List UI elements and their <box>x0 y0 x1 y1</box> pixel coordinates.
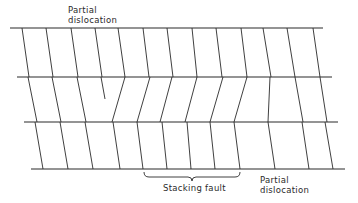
atomic-column-r1-7 <box>167 28 173 77</box>
stacking-fault-diagram: Partial dislocation Stacking fault Parti… <box>0 0 358 203</box>
atomic-column-r2-5 <box>137 77 150 122</box>
atomic-column-r2-4 <box>112 77 125 122</box>
atomic-column-r3-12 <box>325 122 333 169</box>
partial-dislocation-label-top: Partial dislocation <box>68 5 117 25</box>
atomic-column-r1-5 <box>118 28 125 77</box>
partial-dislocation-half-plane <box>101 77 105 99</box>
atomic-column-r3-9 <box>234 122 240 169</box>
atomic-column-r3-5 <box>137 122 143 169</box>
atomic-column-r1-8 <box>192 28 197 77</box>
partial-label-bottom-line1: Partial <box>260 175 309 185</box>
atomic-column-r3-2 <box>60 122 68 169</box>
stacking-fault-label: Stacking fault <box>163 183 226 193</box>
atomic-column-r3-11 <box>302 122 309 169</box>
atomic-column-r1-11 <box>263 28 271 77</box>
atomic-column-r1-3 <box>71 28 78 77</box>
atomic-column-r3-10 <box>268 122 275 169</box>
partial-label-top-line2: dislocation <box>68 15 117 25</box>
atomic-column-r2-7 <box>185 77 197 122</box>
atomic-column-r1-9 <box>216 28 222 77</box>
atomic-column-r3-6 <box>162 122 167 169</box>
atomic-column-r2-10 <box>268 77 270 122</box>
atomic-column-r3-4 <box>113 122 120 169</box>
atomic-column-r2-12 <box>320 77 327 122</box>
partial-label-bottom-line2: dislocation <box>260 185 309 195</box>
atomic-column-r1-6 <box>143 28 149 77</box>
atomic-column-r1-10 <box>241 28 247 77</box>
atomic-column-r2-9 <box>234 77 247 122</box>
atomic-column-r2-2 <box>52 77 61 122</box>
atomic-column-r1-4 <box>95 28 102 77</box>
lattice-drawing <box>0 0 358 203</box>
atomic-column-r1-2 <box>46 28 53 77</box>
atomic-column-r2-6 <box>160 77 172 122</box>
atomic-column-r2-8 <box>210 77 223 122</box>
atomic-column-r1-12 <box>287 28 295 77</box>
partial-label-top-line1: Partial <box>68 5 117 15</box>
atomic-column-r2-11 <box>295 77 303 122</box>
partial-dislocation-label-bottom: Partial dislocation <box>260 175 309 195</box>
atomic-column-r3-8 <box>210 122 215 169</box>
atomic-column-r3-7 <box>187 122 191 169</box>
atomic-column-r3-3 <box>85 122 93 169</box>
atomic-column-r1-1 <box>22 28 29 77</box>
atomic-column-r2-3 <box>77 77 86 122</box>
atomic-column-r2-1 <box>28 77 37 122</box>
stacking-fault-bracket <box>144 172 240 181</box>
atomic-column-r1-13 <box>313 28 320 77</box>
atomic-column-r3-1 <box>35 122 43 169</box>
